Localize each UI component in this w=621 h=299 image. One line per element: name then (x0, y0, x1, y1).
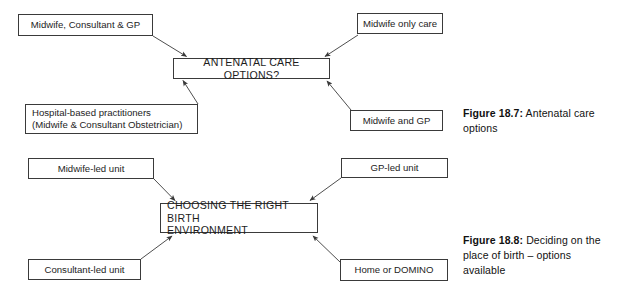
arrow-midwife-led-unit-to-hub (154, 179, 175, 201)
arrow-gp-led-unit-to-hub (310, 178, 341, 201)
hub-antenatal-care-options: ANTENATAL CARE OPTIONS? (173, 58, 330, 79)
node-label: Midwife only care (363, 18, 437, 30)
hub-label: ANTENATAL CARE OPTIONS? (174, 56, 329, 82)
node-label: Midwife, Consultant & GP (31, 19, 140, 31)
arrow-hospital-based-practitioners-to-hub (183, 81, 198, 105)
arrow-midwife-and-gp-to-hub (327, 81, 351, 110)
hub-label: CHOOSING THE RIGHT BIRTH ENVIRONMENT (167, 199, 317, 238)
hub-choosing-right-birth-environment: CHOOSING THE RIGHT BIRTH ENVIRONMENT (160, 203, 318, 233)
node-home-or-domino: Home or DOMINO (340, 259, 448, 281)
node-midwife-led-unit: Midwife-led unit (28, 158, 154, 179)
node-label: Home or DOMINO (355, 264, 434, 276)
node-midwife-and-gp: Midwife and GP (350, 110, 443, 131)
node-label: Hospital-based practitioners (Midwife & … (32, 107, 182, 130)
node-label: Consultant-led unit (45, 264, 125, 276)
arrow-home-or-domino-to-hub (313, 236, 340, 262)
node-label: Midwife and GP (363, 115, 431, 127)
arrow-midwife-consultant-gp-to-hub (153, 36, 187, 57)
node-midwife-consultant-gp: Midwife, Consultant & GP (18, 14, 153, 36)
arrow-midwife-only-care-to-hub (325, 35, 358, 57)
node-gp-led-unit: GP-led unit (341, 158, 448, 178)
caption-figure-18-8: Figure 18.8: Deciding on the place of bi… (463, 233, 615, 279)
caption-label: Figure 18.7: (463, 107, 523, 119)
figure-canvas: Midwife, Consultant & GP Midwife only ca… (0, 0, 621, 299)
node-midwife-only-care: Midwife only care (357, 13, 443, 34)
node-label: GP-led unit (371, 162, 419, 174)
node-hospital-based-practitioners: Hospital-based practitioners (Midwife & … (25, 104, 198, 134)
node-label: Midwife-led unit (58, 163, 125, 175)
caption-figure-18-7: Figure 18.7: Antenatal care options (463, 106, 611, 136)
node-consultant-led-unit: Consultant-led unit (28, 259, 141, 280)
arrow-consultant-led-unit-to-hub (141, 236, 172, 259)
caption-label: Figure 18.8: (463, 234, 523, 246)
